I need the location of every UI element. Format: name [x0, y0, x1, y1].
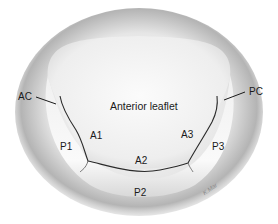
- label-ac: AC: [18, 92, 32, 102]
- label-a2: A2: [135, 156, 147, 166]
- label-p2: P2: [134, 188, 146, 198]
- label-p3: P3: [212, 142, 224, 152]
- mitral-valve-diagram: Anterior leaflet AC PC A1 A2 A3 P1 P2 P3…: [0, 0, 278, 224]
- label-pc: PC: [249, 87, 263, 97]
- label-a3: A3: [181, 130, 193, 140]
- label-anterior-leaflet: Anterior leaflet: [110, 101, 178, 112]
- label-a1: A1: [90, 131, 102, 141]
- label-p1: P1: [60, 142, 72, 152]
